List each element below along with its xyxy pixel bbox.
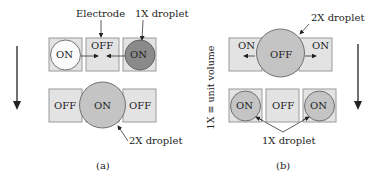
state-b-top-1: ON: [238, 40, 255, 51]
state-a-top-3: ON: [130, 49, 147, 60]
state-a-top-2: OFF: [91, 40, 113, 51]
state-a-bottom-3: OFF: [129, 100, 151, 111]
state-a-bottom-2: ON: [94, 100, 111, 111]
state-b-bottom-2: OFF: [272, 100, 294, 111]
unit-volume-note: 1X ≡ unit volume: [205, 38, 216, 138]
label-electrode: Electrode: [76, 8, 125, 19]
label-2x-droplet-b: 2X droplet: [311, 12, 364, 23]
label-2x-droplet-a: 2X droplet: [129, 135, 182, 146]
state-a-top-1: ON: [56, 49, 73, 60]
label-1x-droplet-b: 1X droplet: [262, 135, 315, 146]
state-a-bottom-1: OFF: [54, 100, 76, 111]
state-b-bottom-1: ON: [236, 100, 253, 111]
state-b-bottom-3: ON: [310, 100, 327, 111]
state-b-top-2: OFF: [270, 49, 292, 60]
diagram-canvas: [0, 0, 375, 177]
label-1x-droplet-a: 1X droplet: [135, 8, 188, 19]
caption-b: (b): [276, 160, 290, 171]
caption-a: (a): [96, 160, 110, 171]
state-b-top-3: ON: [312, 40, 329, 51]
